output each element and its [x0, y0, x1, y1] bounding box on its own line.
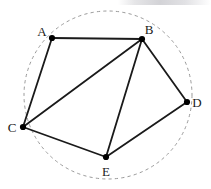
edge-group — [23, 38, 187, 157]
vertex-point-c — [20, 124, 26, 130]
figure-container: ABCDE — [0, 0, 211, 189]
edge-BC — [23, 39, 142, 127]
circumscribed-circle — [24, 11, 192, 179]
inscribed-polygon-diagram: ABCDE — [0, 0, 211, 189]
vertex-label-d: D — [192, 95, 201, 110]
edge-AB — [52, 38, 142, 39]
vertex-point-e — [103, 154, 109, 160]
vertex-label-c: C — [8, 120, 17, 135]
edge-AC — [23, 38, 52, 127]
vertex-label-a: A — [37, 24, 47, 39]
edge-CE — [23, 127, 106, 157]
edge-DE — [106, 102, 187, 157]
edge-BE — [106, 39, 142, 157]
vertex-point-d — [184, 99, 190, 105]
node-group — [20, 35, 190, 160]
vertex-label-b: B — [145, 22, 154, 37]
vertex-label-e: E — [102, 164, 110, 179]
vertex-point-a — [49, 35, 55, 41]
edge-BD — [142, 39, 187, 102]
